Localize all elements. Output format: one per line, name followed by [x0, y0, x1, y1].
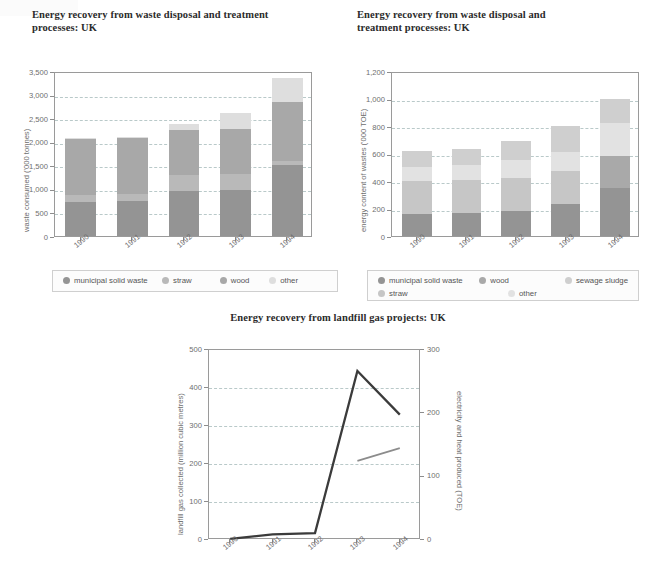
legend-swatch-icon	[220, 277, 227, 284]
y-tick-mark	[387, 155, 391, 156]
legend-item-straw[interactable]: straw	[162, 276, 220, 285]
y-tick-label-right: 100	[427, 471, 457, 480]
y-tick-mark-right	[420, 476, 424, 477]
legend-item-wood[interactable]: wood	[479, 276, 565, 285]
legend-label: straw	[173, 276, 192, 285]
y-tick-mark	[387, 210, 391, 211]
bar-segment-municipal-solid-waste	[272, 165, 303, 236]
legend-swatch-icon	[378, 277, 385, 284]
y-tick-mark-left	[204, 425, 208, 426]
chart-panel-waste-consumed: Energy recovery from waste disposal and …	[0, 0, 345, 300]
bar-segment-straw	[220, 174, 251, 190]
bar-segment-straw	[452, 180, 482, 213]
legend-label: municipal solid waste	[74, 276, 148, 285]
y-tick-label-right: 300	[427, 345, 457, 354]
bar-segment-sewage-sludge	[501, 141, 531, 160]
bar-segment-straw	[169, 175, 200, 191]
legend-swatch-icon	[508, 290, 515, 297]
legend-item-municipal-solid-waste[interactable]: municipal solid waste	[378, 276, 479, 285]
plot-area-energy-content: 02004006008001,0001,20019901991199219931…	[345, 0, 645, 300]
y-tick-mark	[50, 143, 54, 144]
y-tick-mark	[50, 119, 54, 120]
chart-panel-energy-content: Energy recovery from waste disposal and …	[345, 0, 645, 300]
legend-swatch-icon	[378, 290, 385, 297]
bar-1994	[272, 78, 303, 236]
bar-segment-straw	[551, 171, 581, 204]
bar-segment-straw	[402, 181, 432, 214]
bar-segment-sewage-sludge	[551, 126, 581, 152]
bar-segment-wood	[600, 156, 630, 188]
legend-item-wood[interactable]: wood	[220, 276, 270, 285]
legend-label: other	[280, 276, 298, 285]
y-tick-mark	[50, 237, 54, 238]
y-tick-mark	[387, 72, 391, 73]
y-tick-mark	[387, 127, 391, 128]
legend-label: municipal solid waste	[389, 276, 463, 285]
y-tick-label: 3,500	[8, 68, 48, 77]
y-tick-mark-right	[420, 349, 424, 350]
y-tick-mark-right	[420, 539, 424, 540]
y-tick-label: 0	[8, 233, 48, 242]
bar-segment-other	[220, 113, 251, 129]
plot-area-landfill-gas: 0100200300400500010020030019901991199219…	[160, 305, 540, 569]
bar-1991	[452, 149, 482, 236]
legend-swatch-icon	[269, 277, 276, 284]
legend-row: municipal solid wastewoodsewage sludge	[378, 274, 628, 287]
y-tick-label-left: 400	[172, 383, 202, 392]
legend-swatch-icon	[63, 277, 70, 284]
legend-row: municipal solid wastestrawwoodother	[63, 274, 327, 287]
legend-item-sewage-sludge[interactable]: sewage sludge	[565, 276, 628, 285]
bar-segment-municipal-solid-waste	[551, 204, 581, 236]
bar-1992	[501, 141, 531, 236]
bar-segment-municipal-solid-waste	[220, 190, 251, 236]
y-tick-label-left: 0	[172, 535, 202, 544]
bar-segment-other	[402, 167, 432, 181]
y-tick-mark	[387, 237, 391, 238]
legend-waste-consumed: municipal solid wastestrawwoodother	[52, 270, 338, 292]
legend-label: wood	[490, 276, 509, 285]
bar-segment-other	[600, 123, 630, 156]
bar-segment-straw	[272, 161, 303, 166]
bar-segment-other	[452, 165, 482, 181]
bar-segment-wood	[220, 129, 251, 174]
legend-item-municipal-solid-waste[interactable]: municipal solid waste	[63, 276, 162, 285]
legend-label: straw	[389, 289, 408, 298]
bar-segment-municipal-solid-waste	[117, 201, 148, 236]
y-tick-mark-left	[204, 387, 208, 388]
y-tick-mark-left	[204, 463, 208, 464]
bar-segment-other	[501, 160, 531, 178]
line-series-group	[209, 350, 421, 540]
bar-segment-wood	[272, 102, 303, 161]
bar-1990	[65, 138, 96, 236]
legend-swatch-icon	[162, 277, 169, 284]
legend-item-other[interactable]: other	[269, 276, 327, 285]
y-tick-mark	[50, 190, 54, 191]
bar-1992	[169, 124, 200, 236]
bar-1990	[402, 151, 432, 236]
bar-1994	[600, 99, 630, 237]
y-tick-mark-right	[420, 412, 424, 413]
y-axis-title-left: landfill gas collected (million cubic me…	[176, 393, 185, 535]
line-electricity-and-heat-produced	[357, 448, 399, 461]
plot-frame	[391, 72, 639, 237]
bar-segment-wood	[117, 138, 148, 194]
bar-segment-other	[117, 137, 148, 138]
y-tick-label: 3,000	[8, 91, 48, 100]
legend-item-straw[interactable]: straw	[378, 289, 508, 298]
plot-frame	[208, 349, 420, 539]
y-tick-label: 1,000	[345, 95, 385, 104]
legend-item-other[interactable]: other	[508, 289, 618, 298]
legend-label: wood	[231, 276, 250, 285]
bar-segment-other	[169, 124, 200, 130]
bar-segment-municipal-solid-waste	[169, 191, 200, 236]
bar-segment-municipal-solid-waste	[452, 213, 482, 236]
legend-label: sewage sludge	[576, 276, 628, 285]
bar-segment-straw	[117, 194, 148, 201]
bar-segment-sewage-sludge	[402, 151, 432, 167]
bar-segment-municipal-solid-waste	[402, 214, 432, 236]
y-tick-label: 1,200	[345, 68, 385, 77]
bar-segment-municipal-solid-waste	[600, 188, 630, 236]
y-tick-mark-left	[204, 539, 208, 540]
bar-1991	[117, 137, 148, 236]
plot-frame	[54, 72, 312, 237]
